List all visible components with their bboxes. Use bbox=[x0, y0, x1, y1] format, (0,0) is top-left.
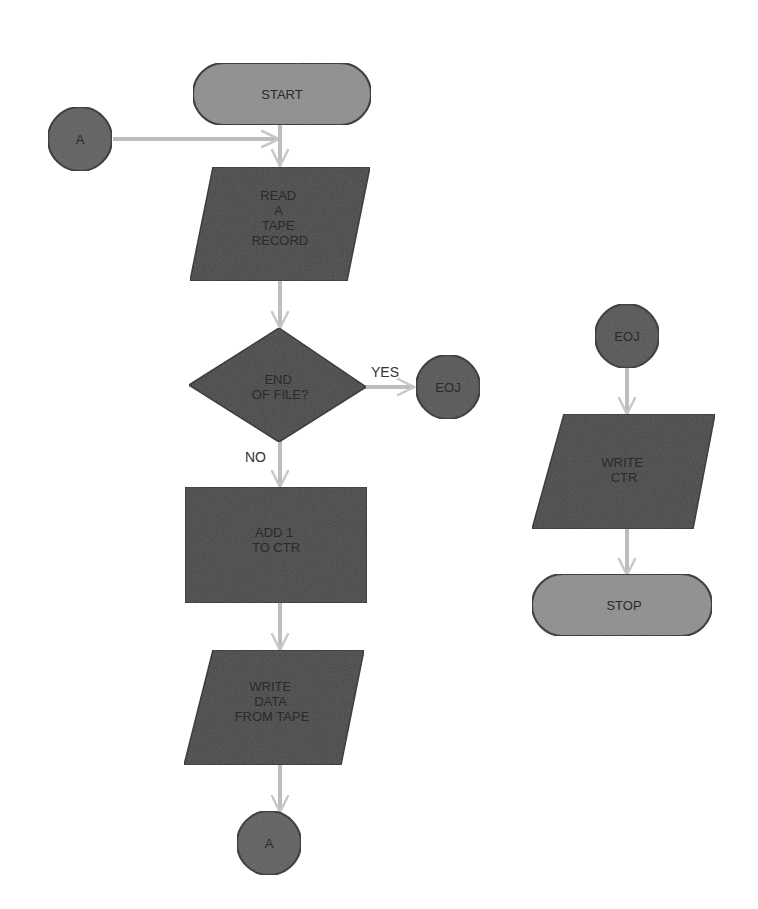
flowchart-diagram: START A READ A TAPE RECORD END OF FILE? … bbox=[0, 0, 758, 909]
start-label: START bbox=[261, 87, 302, 102]
add-counter-process: ADD 1 TO CTR bbox=[185, 487, 367, 603]
connector-eoj-out: EOJ bbox=[416, 355, 480, 419]
connector-eoj-out-label: EOJ bbox=[435, 380, 460, 395]
connector-eoj-in: EOJ bbox=[595, 304, 659, 368]
no-label: NO bbox=[245, 449, 266, 465]
connector-a-in-label: A bbox=[76, 132, 85, 147]
connector-a-out-label: A bbox=[265, 836, 274, 851]
read-record-io: READ A TAPE RECORD bbox=[190, 167, 370, 281]
stop-label: STOP bbox=[606, 598, 641, 613]
connector-eoj-in-label: EOJ bbox=[614, 329, 639, 344]
write-ctr-io: WRITE CTR bbox=[532, 414, 715, 529]
connector-a-out: A bbox=[237, 811, 301, 875]
write-data-io: WRITE DATA FROM TAPE bbox=[184, 650, 364, 765]
end-of-file-decision: END OF FILE? bbox=[189, 328, 366, 442]
start-terminal: START bbox=[193, 63, 371, 125]
yes-label: YES bbox=[371, 364, 399, 380]
add-counter-label: ADD 1 TO CTR bbox=[252, 525, 300, 555]
connector-a-in: A bbox=[48, 107, 112, 171]
stop-terminal: STOP bbox=[532, 574, 712, 636]
